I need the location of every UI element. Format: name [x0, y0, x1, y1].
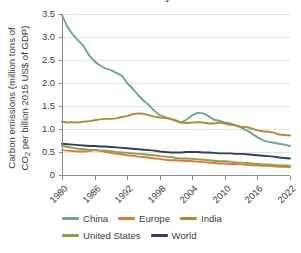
y-tick-label: 0.5 [33, 146, 55, 157]
y-tick-label: 2.5 [33, 54, 55, 65]
legend-swatch-icon [62, 234, 79, 236]
y-axis-title: Carbon emissions (million tons of CO2 pe… [0, 0, 40, 196]
y-tick-label: 2.0 [33, 77, 55, 88]
legend-item-india[interactable]: India [180, 213, 222, 224]
x-tick-label: 2004 [173, 183, 200, 210]
y-axis-title-co: CO [19, 156, 30, 170]
y-tick-mark [59, 14, 62, 15]
series-line-india [62, 113, 290, 135]
legend-label: India [201, 213, 222, 224]
x-tick-mark [290, 176, 291, 180]
legend-item-europe[interactable]: Europe [118, 213, 170, 224]
y-tick-mark [59, 106, 62, 107]
y-tick-label: 3.5 [33, 8, 55, 19]
y-tick-label: 1.5 [33, 100, 55, 111]
chart-title-clipped: Carbon intensity of GDP [0, 0, 301, 7]
x-tick-label: 1986 [75, 183, 102, 210]
x-tick-mark [95, 176, 96, 180]
series-lines [62, 14, 290, 175]
x-tick-label: 2016 [238, 183, 265, 210]
y-tick-label: 1.0 [33, 123, 55, 134]
y-axis-spine [62, 14, 63, 175]
legend-item-china[interactable]: China [62, 213, 108, 224]
chart-title: Carbon intensity of GDP [0, 0, 301, 2]
legend-swatch-icon [151, 234, 168, 236]
legend-label: Europe [139, 213, 170, 224]
y-axis-title-rest: per billion 2015 US$ of GDP) [19, 26, 30, 152]
series-line-china [62, 15, 290, 146]
x-axis-spine [62, 175, 290, 176]
x-tick-label: 1980 [43, 183, 70, 210]
y-tick-mark [59, 152, 62, 153]
x-tick-label: 1998 [140, 183, 167, 210]
legend-item-united-states[interactable]: United States [62, 230, 141, 241]
legend-swatch-icon [62, 217, 79, 219]
y-tick-mark [59, 37, 62, 38]
x-tick-label: 1992 [108, 183, 135, 210]
x-tick-mark [127, 176, 128, 180]
series-svg [62, 14, 290, 177]
legend-row-2: United StatesWorld [62, 227, 294, 244]
y-tick-label: 3.0 [33, 31, 55, 42]
legend-row-1: ChinaEuropeIndia [62, 210, 294, 227]
legend-label: China [83, 213, 108, 224]
legend-swatch-icon [180, 217, 197, 219]
y-axis-title-line2: CO2 per billion 2015 US$ of GDP) [19, 26, 34, 171]
x-tick-label: 2022 [271, 183, 298, 210]
x-tick-mark [160, 176, 161, 180]
x-tick-mark [192, 176, 193, 180]
y-tick-mark [59, 83, 62, 84]
legend-label: World [172, 230, 197, 241]
y-axis-title-subscript: 2 [22, 152, 31, 156]
legend-item-world[interactable]: World [151, 230, 197, 241]
plot-area: 00.51.01.52.02.53.03.5 19801986199219982… [62, 14, 290, 175]
chart-legend: ChinaEuropeIndia United StatesWorld [62, 210, 294, 250]
legend-swatch-icon [118, 217, 135, 219]
y-tick-label: 0 [33, 169, 55, 180]
y-tick-mark [59, 129, 62, 130]
y-tick-mark [59, 60, 62, 61]
chart-figure: Carbon intensity of GDP Carbon emissions… [0, 0, 301, 253]
y-axis-title-line1: Carbon emissions (million tons of [6, 27, 17, 168]
x-tick-mark [62, 176, 63, 180]
x-tick-mark [257, 176, 258, 180]
x-tick-label: 2010 [206, 183, 233, 210]
x-tick-mark [225, 176, 226, 180]
legend-label: United States [83, 230, 141, 241]
